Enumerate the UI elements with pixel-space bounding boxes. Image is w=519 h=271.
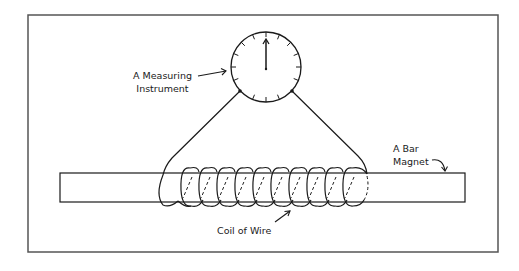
label-magnet-line1: A Bar — [393, 142, 429, 155]
label-bar-magnet: A Bar Magnet — [393, 142, 429, 168]
arrow-to-meter — [198, 71, 226, 76]
label-coil-of-wire: Coil of Wire — [217, 224, 271, 237]
label-magnet-line2: Magnet — [393, 155, 429, 168]
wire-right — [292, 91, 367, 174]
arrow-to-coil — [275, 211, 290, 222]
label-meter-line2: Instrument — [133, 82, 192, 95]
label-measuring-instrument: A Measuring Instrument — [133, 69, 192, 95]
label-meter-line1: A Measuring — [133, 69, 192, 82]
bar-magnet — [60, 173, 465, 202]
coil-hidden-segments — [183, 176, 368, 200]
measuring-instrument — [231, 32, 301, 102]
wire-left — [163, 91, 240, 175]
